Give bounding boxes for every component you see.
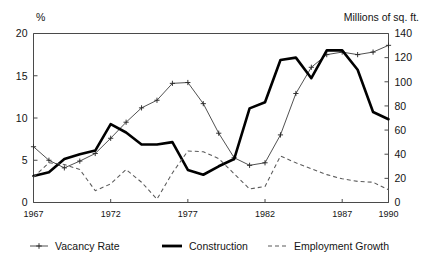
right-axis-tick-label: 120 xyxy=(395,51,413,63)
series-point-marker xyxy=(216,131,221,136)
legend-item-vacancy-rate[interactable]: Vacancy Rate xyxy=(30,240,120,252)
right-axis-tick-label: 20 xyxy=(395,172,407,184)
series-line xyxy=(34,151,389,199)
legend-item-construction[interactable]: Construction xyxy=(162,240,248,252)
data-series-group xyxy=(31,43,391,199)
right-axis-tick-label: 140 xyxy=(395,27,413,39)
right-axis-tick-label: 0 xyxy=(395,196,401,208)
series-point-marker xyxy=(278,132,283,137)
left-axis-tick-label: 5 xyxy=(22,154,28,166)
x-axis: 196719721977198219871990 xyxy=(23,199,398,219)
x-axis-tick-label: 1982 xyxy=(255,209,275,219)
series-point-marker xyxy=(293,91,298,96)
left-axis: 05101520 xyxy=(16,27,38,208)
x-axis-tick-label: 1967 xyxy=(23,209,43,219)
right-axis-tick-label: 100 xyxy=(395,76,413,88)
chart-plot-area: 05101520 020406080100120140 196719721977… xyxy=(0,0,429,266)
right-axis-tick-label: 80 xyxy=(395,100,407,112)
series-vacancy-rate xyxy=(31,43,391,171)
x-axis-tick-label: 1990 xyxy=(378,209,398,219)
legend-label: Employment Growth xyxy=(294,240,389,252)
series-point-marker xyxy=(77,159,82,164)
x-axis-tick-label: 1987 xyxy=(332,209,352,219)
right-axis-tick-label: 40 xyxy=(395,148,407,160)
chart-figure: % Millions of sq. ft. 05101520 020406080… xyxy=(0,0,429,266)
legend-label: Vacancy Rate xyxy=(55,240,120,252)
series-employment-growth xyxy=(34,151,389,199)
left-axis-tick-label: 10 xyxy=(16,112,28,124)
series-point-marker xyxy=(370,49,375,54)
series-point-marker xyxy=(355,52,360,57)
x-axis-tick-label: 1972 xyxy=(101,209,121,219)
series-line xyxy=(34,50,389,176)
legend-label: Construction xyxy=(189,240,248,252)
legend-plus-marker-icon xyxy=(36,243,42,249)
right-axis-tick-label: 60 xyxy=(395,124,407,136)
left-axis-tick-label: 15 xyxy=(16,70,28,82)
series-point-marker xyxy=(62,165,67,170)
legend-item-employment-growth[interactable]: Employment Growth xyxy=(268,240,389,252)
left-axis-tick-label: 0 xyxy=(22,196,28,208)
series-line xyxy=(34,45,389,168)
series-point-marker xyxy=(262,160,267,165)
series-point-marker xyxy=(247,163,252,168)
series-construction xyxy=(34,50,389,176)
x-axis-tick-label: 1977 xyxy=(178,209,198,219)
series-point-marker xyxy=(386,43,391,48)
left-axis-tick-label: 20 xyxy=(16,27,28,39)
chart-legend: Vacancy RateConstructionEmployment Growt… xyxy=(30,240,389,252)
